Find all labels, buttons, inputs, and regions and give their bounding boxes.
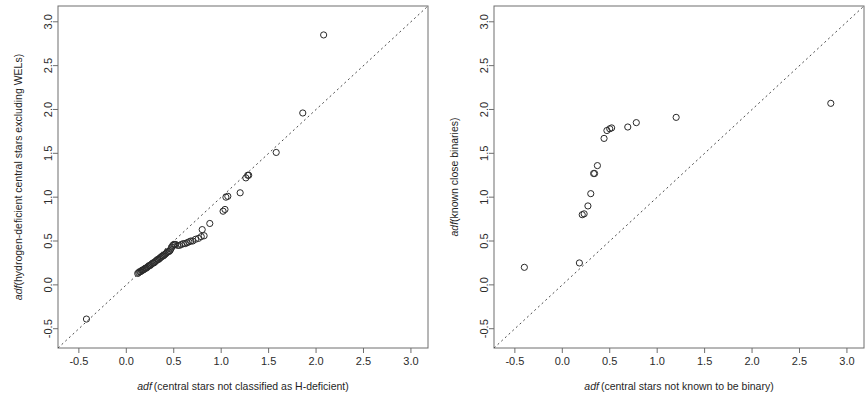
x-tick-label: -0.5 bbox=[69, 355, 88, 367]
y-tick-label: 0.0 bbox=[478, 277, 490, 292]
data-point bbox=[625, 124, 631, 130]
data-point bbox=[83, 316, 89, 322]
x-axis-title-rest: (central stars not known to be binary) bbox=[601, 380, 774, 392]
y-axis-title-italic: adf bbox=[448, 221, 460, 237]
y-tick-label: 2.0 bbox=[42, 102, 54, 117]
y-axis-title-italic: adf bbox=[12, 284, 24, 300]
y-tick-label: 0.5 bbox=[478, 233, 490, 248]
data-point-group bbox=[521, 100, 834, 270]
data-point bbox=[585, 203, 591, 209]
y-tick-label: 1.5 bbox=[42, 146, 54, 161]
reference-line-one-to-one bbox=[494, 6, 864, 348]
x-tick-label: 0.0 bbox=[555, 355, 570, 367]
x-axis-title-rest: (central stars not classified as H-defic… bbox=[154, 380, 349, 392]
scatter-panel-left: -0.50.00.51.01.52.02.53.0-0.50.00.51.01.… bbox=[0, 0, 440, 406]
data-point bbox=[673, 114, 679, 120]
x-tick-label: 1.5 bbox=[261, 355, 276, 367]
x-tick-label: 3.0 bbox=[839, 355, 854, 367]
y-tick-label: 3.0 bbox=[42, 14, 54, 29]
figure-container: -0.50.00.51.01.52.02.53.0-0.50.00.51.01.… bbox=[0, 0, 865, 406]
x-tick-label: 1.0 bbox=[214, 355, 229, 367]
data-point bbox=[220, 208, 226, 214]
x-axis-title: adf(central stars not classified as H-de… bbox=[137, 380, 349, 392]
x-tick-label: 2.0 bbox=[308, 355, 323, 367]
y-tick-label: 2.5 bbox=[42, 58, 54, 73]
y-tick-label: 1.0 bbox=[42, 190, 54, 205]
y-tick-label: 3.0 bbox=[478, 14, 490, 29]
y-tick-label: -0.5 bbox=[42, 319, 54, 338]
x-tick-label: 0.0 bbox=[119, 355, 134, 367]
data-point bbox=[237, 190, 243, 196]
x-tick-label: 3.0 bbox=[403, 355, 418, 367]
scatter-plot-right: -0.50.00.51.01.52.02.53.0-0.50.00.51.01.… bbox=[440, 0, 865, 406]
data-point bbox=[199, 227, 205, 233]
x-axis-title-italic: adf bbox=[584, 380, 600, 392]
y-tick-label: 2.0 bbox=[478, 102, 490, 117]
data-point bbox=[588, 191, 594, 197]
data-point bbox=[576, 260, 582, 266]
y-tick-label: 1.5 bbox=[478, 146, 490, 161]
data-point bbox=[300, 110, 306, 116]
y-tick-label: 0.0 bbox=[42, 277, 54, 292]
y-tick-label: 1.0 bbox=[478, 190, 490, 205]
data-point bbox=[633, 120, 639, 126]
y-tick-label: 0.5 bbox=[42, 233, 54, 248]
y-axis-title: adf(known close binaries) bbox=[448, 117, 460, 236]
data-point bbox=[601, 135, 607, 141]
data-point bbox=[321, 32, 327, 38]
x-axis-title-italic: adf bbox=[137, 380, 153, 392]
y-axis-title-rest: (hydrogen-deficient central stars exclud… bbox=[12, 54, 24, 286]
y-axis-title-rest: (known close binaries) bbox=[448, 117, 460, 221]
data-point bbox=[207, 220, 213, 226]
x-tick-label: 1.5 bbox=[697, 355, 712, 367]
x-tick-label: 2.0 bbox=[744, 355, 759, 367]
x-tick-label: 1.0 bbox=[650, 355, 665, 367]
data-point bbox=[594, 163, 600, 169]
x-axis-title: adf(central stars not known to be binary… bbox=[584, 380, 773, 392]
y-tick-label: -0.5 bbox=[478, 319, 490, 338]
y-axis-title: adf(hydrogen-deficient central stars exc… bbox=[12, 54, 24, 300]
data-point bbox=[273, 149, 279, 155]
data-point bbox=[521, 264, 527, 270]
data-point-group bbox=[83, 32, 326, 322]
x-tick-label: 2.5 bbox=[356, 355, 371, 367]
data-point bbox=[828, 100, 834, 106]
x-tick-label: 2.5 bbox=[792, 355, 807, 367]
x-tick-label: 0.5 bbox=[166, 355, 181, 367]
scatter-panel-right: -0.50.00.51.01.52.02.53.0-0.50.00.51.01.… bbox=[440, 0, 865, 406]
data-point bbox=[222, 206, 228, 212]
scatter-plot-left: -0.50.00.51.01.52.02.53.0-0.50.00.51.01.… bbox=[0, 0, 440, 406]
x-tick-label: 0.5 bbox=[602, 355, 617, 367]
x-tick-label: -0.5 bbox=[505, 355, 524, 367]
y-tick-label: 2.5 bbox=[478, 58, 490, 73]
